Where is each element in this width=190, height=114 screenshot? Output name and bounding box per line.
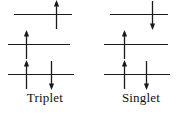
spin-configuration-figure: Triplet Singlet	[0, 0, 190, 114]
triplet-middle-level-line	[8, 44, 70, 45]
singlet-lower-electron-down-arrow	[142, 60, 151, 90]
caption-singlet: Singlet	[96, 90, 186, 106]
triplet-upper-electron-up-arrow	[52, 0, 61, 30]
triplet-lower-electron-down-arrow	[47, 60, 56, 90]
triplet-middle-electron-up-arrow	[22, 30, 31, 60]
singlet-lower-electron-up-arrow	[120, 60, 129, 90]
triplet-upper-level-line	[14, 14, 72, 15]
caption-triplet: Triplet	[0, 90, 90, 106]
triplet-lower-level-line	[8, 74, 74, 75]
diagram-singlet	[98, 0, 188, 90]
singlet-lower-level-line	[104, 74, 170, 75]
singlet-upper-electron-down-arrow	[148, 0, 157, 30]
diagram-triplet	[2, 0, 92, 90]
singlet-upper-level-line	[110, 14, 168, 15]
triplet-lower-electron-up-arrow	[22, 60, 31, 90]
singlet-middle-electron-up-arrow	[120, 30, 129, 60]
singlet-middle-level-line	[104, 44, 168, 45]
